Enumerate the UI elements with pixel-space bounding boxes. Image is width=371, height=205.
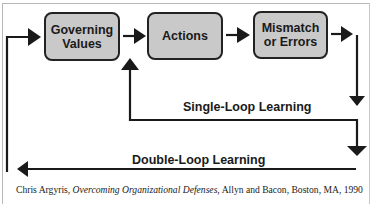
citation-publisher: Allyn and Bacon, Boston, MA, 1990 (220, 184, 363, 195)
arrowhead-into-mismatch (237, 27, 250, 43)
citation: Chris Argyris, Overcoming Organizational… (16, 184, 363, 195)
mismatch-line1: Mismatch (262, 21, 320, 35)
arrowhead-into-actions (134, 28, 146, 44)
double-loop-label: Double-Loop Learning (132, 153, 265, 167)
mismatch-box: Mismatch or Errors (253, 11, 328, 59)
governing-values-box: Governing Values (44, 12, 120, 61)
arrowhead-double-down (347, 146, 367, 156)
governing-values-line1: Governing (51, 23, 114, 37)
arrowhead-single-down (349, 96, 365, 106)
citation-author: Chris Argyris, (16, 184, 73, 195)
governing-values-line2: Values (51, 37, 114, 51)
double-loop-return-line (7, 37, 30, 172)
arrowhead-out-mismatch (341, 26, 353, 42)
citation-title: Overcoming Organizational Defenses, (73, 184, 220, 195)
arrowhead-double-left (17, 161, 28, 177)
mismatch-line2: or Errors (262, 35, 320, 49)
arrowhead-single-up (121, 58, 139, 70)
arrowhead-into-gv (28, 28, 41, 46)
actions-label: Actions (162, 29, 208, 43)
actions-box: Actions (147, 12, 223, 60)
single-loop-label: Single-Loop Learning (183, 100, 311, 114)
